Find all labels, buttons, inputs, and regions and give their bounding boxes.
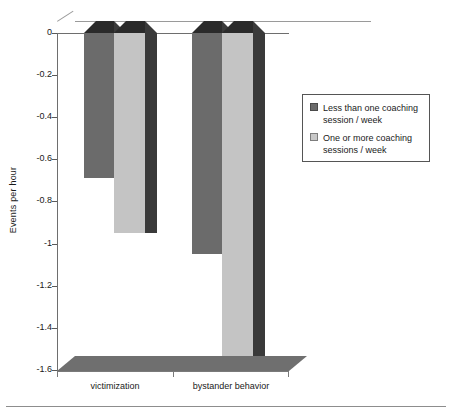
category-tick: [288, 371, 289, 377]
bar-bystander-behavior-one-or-more: [222, 33, 253, 359]
y-tick-label: -1.4: [16, 323, 52, 332]
y-tick-label: -0.2: [16, 70, 52, 79]
y-tick-label: -1.6: [16, 365, 52, 374]
legend-item-label: Less than one coaching session / week: [323, 102, 418, 126]
y-axis-line: [57, 33, 58, 371]
bar-top-face: [84, 21, 114, 33]
bar-side-face: [145, 21, 157, 233]
bar-top-face: [192, 21, 222, 33]
y-tick-label: -0.4: [16, 112, 52, 121]
light-gray-swatch-icon: [310, 133, 318, 141]
legend-item-less-than-one: Less than one coaching session / week: [310, 102, 421, 126]
plot-backwall-left-edge: [57, 11, 73, 22]
bar-victimization-less-than-one: [84, 33, 114, 178]
bar-bystander-behavior-less-than-one: [192, 33, 222, 254]
bar-chart-figure: Events per hour 0 -0.2 -0.4 -0.6 -0.8 -1…: [0, 0, 452, 420]
bar-front-face: [114, 33, 145, 233]
plot-floor-top: [57, 356, 307, 372]
category-label-bystander-behavior: bystander behavior: [175, 381, 287, 391]
legend-item-label: One or more coaching sessions / week: [323, 132, 412, 156]
y-tick-label: -0.8: [16, 196, 52, 205]
y-tick-label: -1: [16, 239, 52, 248]
bar-side-face: [253, 21, 265, 359]
category-label-victimization: victimization: [60, 381, 170, 391]
plot-backwall-top-edge: [75, 21, 371, 22]
y-axis-ticks: 0 -0.2 -0.4 -0.6 -0.8 -1 -1.2 -1.4 -1.6: [14, 0, 52, 420]
category-tick: [57, 371, 58, 377]
plot-floor: [57, 356, 307, 372]
dark-gray-swatch-icon: [310, 103, 318, 111]
bar-front-face: [222, 33, 253, 359]
category-tick: [173, 371, 174, 377]
bar-front-face: [192, 33, 222, 254]
chart-legend: Less than one coaching session / week On…: [302, 94, 430, 162]
bar-front-face: [84, 33, 114, 178]
y-tick-label: -1.2: [16, 281, 52, 290]
bar-victimization-one-or-more: [114, 33, 145, 233]
page-horizontal-rule: [6, 406, 446, 407]
y-tick-label: -0.6: [16, 154, 52, 163]
y-tick-label: 0: [16, 28, 52, 37]
legend-item-one-or-more: One or more coaching sessions / week: [310, 132, 421, 156]
